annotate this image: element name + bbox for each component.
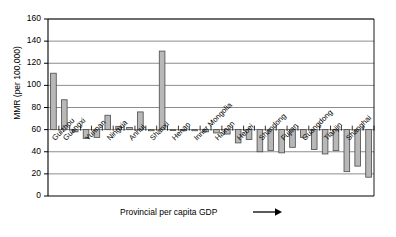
- bar: [51, 73, 57, 129]
- y-tick-label: 40: [15, 146, 41, 156]
- bar: [127, 127, 133, 129]
- x-axis-title: Provincial per capita GDP: [120, 207, 217, 217]
- y-tick-label: 160: [15, 13, 41, 23]
- y-axis-title: MMR (per 100,000): [12, 28, 22, 138]
- y-tick-label: 20: [15, 168, 41, 178]
- chart-canvas: [0, 0, 396, 237]
- y-tick-label: 0: [15, 190, 41, 200]
- bar: [366, 130, 372, 178]
- bar: [159, 51, 165, 130]
- chart-figure: 020406080100120140160 GuizhouGuangxiYunn…: [0, 0, 396, 237]
- x-axis-arrow-icon: [253, 207, 283, 217]
